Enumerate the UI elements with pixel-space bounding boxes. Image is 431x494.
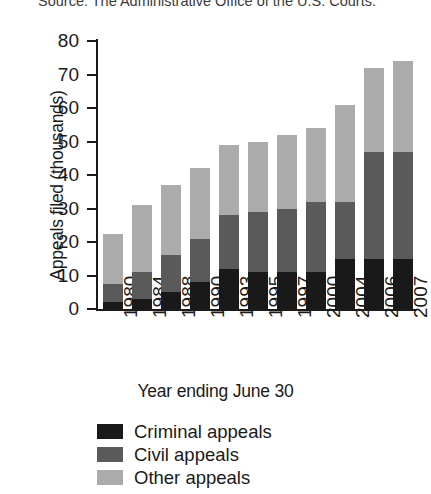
chart-legend: Criminal appealsCivil appealsOther appea… [97, 420, 272, 489]
legend-item-civil-appeals: Civil appeals [97, 443, 272, 466]
bar-segment-criminal-1995 [248, 272, 268, 309]
y-tick-label-20: 20 [19, 232, 79, 251]
bar-segment-criminal-1984 [132, 299, 152, 309]
x-axis-title: Year ending June 30 [0, 381, 431, 402]
bar-segment-other-1980 [103, 234, 123, 284]
y-tick-20 [87, 241, 96, 243]
bar-1988 [161, 185, 181, 309]
chart-figure: Source: The Administrative Office of the… [0, 0, 431, 494]
bar-1990 [190, 168, 210, 309]
legend-label: Criminal appeals [134, 422, 272, 442]
y-tick-30 [87, 208, 96, 210]
bar-2007 [393, 61, 413, 309]
bar-segment-criminal-2000 [306, 272, 326, 309]
bar-segment-other-2006 [364, 68, 384, 152]
bar-segment-other-1990 [190, 168, 210, 238]
legend-label: Civil appeals [134, 445, 239, 465]
y-tick-60 [87, 107, 96, 109]
legend-swatch-icon [97, 447, 123, 462]
bar-segment-criminal-1990 [190, 282, 210, 309]
y-tick-80 [87, 40, 96, 42]
bar-1995 [248, 142, 268, 309]
source-note: Source: The Administrative Office of the… [38, 0, 428, 7]
bar-segment-civil-2004 [335, 202, 355, 259]
bar-segment-other-1997 [277, 135, 297, 209]
y-tick-label-80: 80 [19, 31, 79, 50]
bar-segment-criminal-2007 [393, 259, 413, 309]
y-tick-label-50: 50 [19, 132, 79, 151]
bar-segment-civil-1984 [132, 272, 152, 299]
bar-segment-civil-1993 [219, 215, 239, 269]
bar-2000 [306, 128, 326, 309]
bar-segment-other-2007 [393, 61, 413, 151]
y-tick-label-60: 60 [19, 98, 79, 117]
bar-1984 [132, 205, 152, 309]
y-tick-10 [87, 275, 96, 277]
y-tick-label-10: 10 [19, 266, 79, 285]
bar-segment-civil-2007 [393, 152, 413, 259]
legend-label: Other appeals [134, 468, 250, 488]
bar-1997 [277, 135, 297, 309]
bar-2004 [335, 105, 355, 309]
bar-2006 [364, 68, 384, 309]
bar-segment-criminal-2006 [364, 259, 384, 309]
y-tick-label-70: 70 [19, 65, 79, 84]
legend-swatch-icon [97, 470, 123, 485]
y-tick-50 [87, 141, 96, 143]
legend-item-criminal-appeals: Criminal appeals [97, 420, 272, 443]
bar-segment-criminal-1997 [277, 272, 297, 309]
bar-segment-civil-1988 [161, 255, 181, 292]
bar-segment-other-1993 [219, 145, 239, 215]
y-tick-0 [87, 308, 96, 310]
legend-item-other-appeals: Other appeals [97, 466, 272, 489]
bar-segment-criminal-2004 [335, 259, 355, 309]
legend-swatch-icon [97, 424, 123, 439]
bar-segment-civil-1997 [277, 209, 297, 273]
bar-segment-civil-2000 [306, 202, 326, 272]
y-tick-label-40: 40 [19, 165, 79, 184]
bar-segment-other-1988 [161, 185, 181, 255]
bar-segment-criminal-1993 [219, 269, 239, 309]
bar-segment-civil-2006 [364, 152, 384, 259]
bar-segment-other-1984 [132, 205, 152, 272]
bar-segment-other-2000 [306, 128, 326, 202]
bar-segment-civil-1995 [248, 212, 268, 272]
y-tick-label-0: 0 [19, 299, 79, 318]
y-tick-40 [87, 174, 96, 176]
bar-1993 [219, 145, 239, 309]
y-tick-label-30: 30 [19, 199, 79, 218]
bar-segment-criminal-1980 [103, 302, 123, 309]
plot-area [96, 41, 416, 309]
bar-segment-civil-1980 [103, 284, 123, 302]
bar-1980 [103, 234, 123, 309]
bar-segment-criminal-1988 [161, 292, 181, 309]
y-tick-70 [87, 74, 96, 76]
bar-segment-other-2004 [335, 105, 355, 202]
bar-segment-civil-1990 [190, 239, 210, 283]
bar-segment-other-1995 [248, 142, 268, 212]
